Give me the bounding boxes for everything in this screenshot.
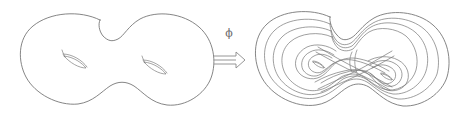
handle-arc-right [142, 56, 145, 63]
target-handle-hole-left [313, 61, 325, 68]
source-handle-hole-left [62, 50, 87, 68]
source-surface-outline [20, 14, 214, 105]
target-handle-hole-right [381, 73, 393, 80]
target-spiral-left-inner [308, 54, 334, 72]
source-surface [20, 14, 214, 105]
target-waist-band-left [350, 52, 352, 72]
map-arrow [214, 52, 245, 68]
target-surface [255, 12, 449, 107]
source-handle-hole-right [142, 56, 167, 74]
diagram-canvas [0, 0, 453, 121]
map-label-phi: ϕ [220, 27, 238, 40]
figure-root: ϕ [0, 0, 453, 121]
handle-arc-left [62, 50, 65, 57]
